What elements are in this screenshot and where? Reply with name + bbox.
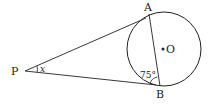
label-angle-75: 75° — [140, 70, 156, 80]
geometry-diagram: P A B O x 75° — [0, 0, 213, 106]
label-o: O — [166, 43, 175, 56]
label-angle-x: x — [40, 64, 45, 74]
center-dot — [162, 48, 165, 51]
label-p: P — [11, 65, 19, 78]
label-b: B — [156, 88, 164, 101]
label-a: A — [143, 1, 153, 14]
